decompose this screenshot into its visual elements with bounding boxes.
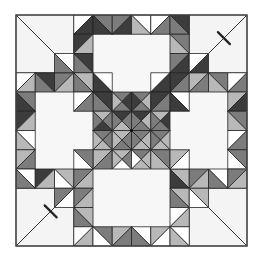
- patch-4-4: [93, 92, 112, 111]
- quilt-block: [0, 0, 260, 256]
- patch-6-5: [132, 111, 151, 130]
- patch-3-10: [74, 208, 93, 227]
- patch-7-6: [151, 131, 170, 150]
- patch-5-0: [112, 15, 131, 34]
- patch-8-7: [170, 150, 189, 169]
- patch-7-7: [151, 150, 170, 169]
- patch-8-11: [170, 227, 189, 246]
- patch-11-5: [228, 111, 247, 130]
- patch-8-10: [170, 208, 189, 227]
- patch-8-8: [170, 169, 189, 188]
- patch-2-3: [55, 73, 74, 92]
- patch-10-8: [209, 169, 228, 188]
- patch-5-4: [112, 92, 131, 111]
- patch-11-7: [228, 150, 247, 169]
- patch-0-8: [16, 169, 35, 188]
- patch-5-11: [112, 227, 131, 246]
- patch-3-9: [74, 188, 93, 207]
- patch-0-7: [16, 150, 35, 169]
- patch-4-5: [93, 111, 112, 130]
- patch-0-4: [16, 92, 35, 111]
- patch-6-6: [132, 131, 151, 150]
- patch-11-6: [228, 131, 247, 150]
- patch-9-8: [189, 169, 208, 188]
- patch-6-4: [132, 92, 151, 111]
- patch-6-7: [132, 150, 151, 169]
- patch-0-6: [16, 131, 35, 150]
- patch-4-7: [93, 150, 112, 169]
- patch-1-8: [35, 169, 54, 188]
- patch-6-0: [132, 15, 151, 34]
- patch-10-3: [209, 73, 228, 92]
- patch-8-3: [170, 73, 189, 92]
- patch-7-4: [151, 92, 170, 111]
- patch-4-11: [93, 227, 112, 246]
- patch-3-11: [74, 227, 93, 246]
- patch-5-5: [112, 111, 131, 130]
- patch-6-11: [132, 227, 151, 246]
- patch-9-3: [189, 73, 208, 92]
- patch-0-5: [16, 111, 35, 130]
- patch-3-1: [74, 34, 93, 53]
- patch-3-2: [74, 54, 93, 73]
- heart-bottom-interior: [93, 169, 170, 227]
- patch-0-3: [16, 73, 35, 92]
- patch-5-6: [112, 131, 131, 150]
- patch-11-4: [228, 92, 247, 111]
- patch-11-8: [228, 169, 247, 188]
- patch-7-3: [151, 73, 170, 92]
- patch-8-0: [170, 15, 189, 34]
- patch-8-1: [170, 34, 189, 53]
- patch-3-0: [74, 15, 93, 34]
- patch-3-4: [74, 92, 93, 111]
- patch-11-3: [228, 73, 247, 92]
- patch-8-9: [170, 188, 189, 207]
- patch-8-2: [170, 54, 189, 73]
- patch-3-3: [74, 73, 93, 92]
- patch-4-0: [93, 15, 112, 34]
- patch-7-5: [151, 111, 170, 130]
- patch-4-3: [93, 73, 112, 92]
- patch-5-7: [112, 150, 131, 169]
- patch-8-4: [170, 92, 189, 111]
- patch-4-6: [93, 131, 112, 150]
- patch-3-7: [74, 150, 93, 169]
- patch-7-11: [151, 227, 170, 246]
- patch-7-0: [151, 15, 170, 34]
- center-point: [130, 129, 133, 132]
- patch-1-3: [35, 73, 54, 92]
- patch-2-8: [55, 169, 74, 188]
- patch-3-8: [74, 169, 93, 188]
